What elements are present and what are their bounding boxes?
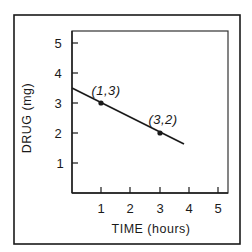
x-ticks — [101, 187, 218, 193]
data-point-1-3 — [98, 100, 103, 105]
chart: 5 4 3 2 1 1 2 3 4 5 TIME (hours) DRUG (m… — [0, 0, 252, 252]
x-tick-label-3: 3 — [156, 201, 163, 216]
y-tick-label-2: 2 — [54, 126, 61, 141]
y-tick-label-3: 3 — [54, 96, 61, 111]
x-tick-label-2: 2 — [126, 201, 133, 216]
x-tick-label-4: 4 — [185, 201, 192, 216]
y-tick-label-4: 4 — [54, 66, 61, 81]
x-axis-label: TIME (hours) — [112, 222, 191, 236]
point-label-1-3: (1,3) — [91, 83, 120, 98]
point-label-3-2: (3,2) — [148, 112, 177, 127]
x-tick-label-5: 5 — [214, 201, 221, 216]
x-tick-label-1: 1 — [97, 201, 104, 216]
y-tick-label-1: 1 — [56, 156, 63, 171]
y-ticks — [72, 43, 78, 163]
data-point-3-2 — [157, 130, 162, 135]
y-axis-label: DRUG (mg) — [20, 83, 34, 153]
y-tick-label-5: 5 — [54, 36, 61, 51]
